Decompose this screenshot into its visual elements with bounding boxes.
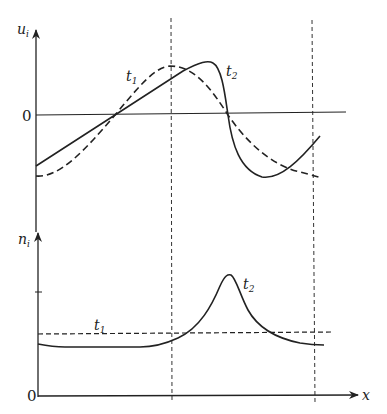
top-label-t2: t2 bbox=[226, 63, 238, 81]
bottom-curve-t2-solid bbox=[38, 275, 324, 347]
top-y-axis-label: ui bbox=[17, 21, 29, 39]
bottom-y-axis-label: ni bbox=[18, 231, 30, 249]
bottom-label-t1: t1 bbox=[94, 317, 105, 335]
top-panel: ui 0 t1 t2 bbox=[17, 21, 346, 232]
vertical-marker-left bbox=[171, 18, 172, 402]
bottom-x-axis-label: x bbox=[362, 387, 370, 403]
bottom-x-axis bbox=[38, 395, 358, 396]
bottom-label-t2: t2 bbox=[243, 276, 255, 294]
diagram: ui 0 t1 t2 ni 0 x t1 t2 bbox=[0, 0, 387, 414]
bottom-panel: ni 0 x t1 t2 bbox=[18, 231, 370, 405]
top-label-t1: t1 bbox=[126, 68, 137, 86]
top-curve-t2-solid bbox=[36, 62, 320, 178]
top-curve-t1-dashed bbox=[36, 66, 322, 178]
top-zero-line bbox=[36, 112, 346, 115]
top-origin-label: 0 bbox=[22, 107, 32, 125]
bottom-origin-label: 0 bbox=[27, 387, 37, 405]
